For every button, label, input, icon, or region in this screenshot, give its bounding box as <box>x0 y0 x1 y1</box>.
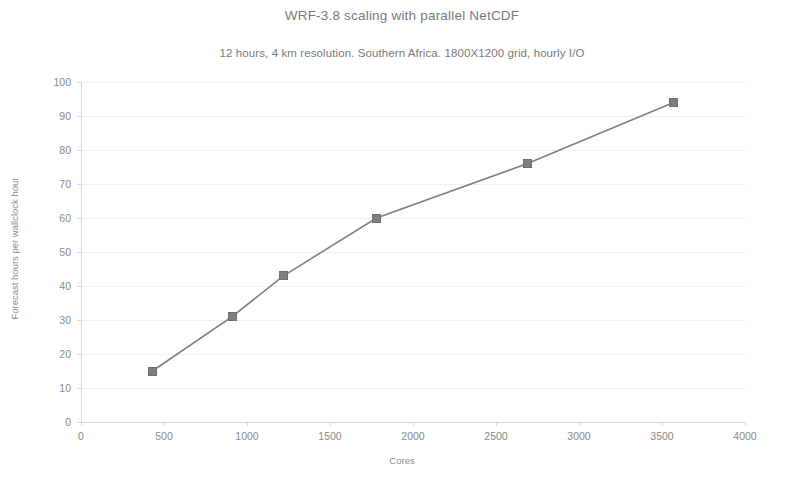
y-axis-tick-label: 60 <box>31 213 71 224</box>
y-axis-line <box>81 82 82 423</box>
x-axis-tick <box>247 422 248 426</box>
gridline-horizontal <box>81 184 745 185</box>
y-axis-tick-label: 20 <box>31 349 71 360</box>
x-axis-tick <box>81 422 82 426</box>
data-point-marker <box>669 98 678 107</box>
y-axis-tick <box>77 150 81 151</box>
gridline-horizontal <box>81 286 745 287</box>
gridline-horizontal <box>81 150 745 151</box>
gridline-horizontal <box>81 252 745 253</box>
gridline-horizontal <box>81 116 745 117</box>
y-axis-tick-label: 50 <box>31 247 71 258</box>
x-axis-title: Cores <box>0 455 804 466</box>
data-point-marker <box>228 312 237 321</box>
data-point-marker <box>372 214 381 223</box>
data-point-marker <box>148 367 157 376</box>
chart-title: WRF-3.8 scaling with parallel NetCDF <box>0 8 804 23</box>
x-axis-tick <box>413 422 414 426</box>
plot-area <box>81 82 745 423</box>
x-axis-tick <box>662 422 663 426</box>
y-axis-tick <box>77 184 81 185</box>
y-axis-tick <box>77 388 81 389</box>
data-point-marker <box>523 159 532 168</box>
x-axis-tick <box>579 422 580 426</box>
y-axis-tick <box>77 320 81 321</box>
y-axis-tick-label: 90 <box>31 111 71 122</box>
y-axis-tick <box>77 252 81 253</box>
y-axis-tick-label: 70 <box>31 179 71 190</box>
gridline-horizontal <box>81 218 745 219</box>
gridline-horizontal <box>81 82 745 83</box>
gridline-horizontal <box>81 388 745 389</box>
gridline-horizontal <box>81 354 745 355</box>
y-axis-tick <box>77 354 81 355</box>
chart-subtitle: 12 hours, 4 km resolution. Southern Afri… <box>0 47 804 59</box>
x-axis-tick-label: 0 <box>51 431 111 442</box>
chart-page: WRF-3.8 scaling with parallel NetCDF 12 … <box>0 0 804 484</box>
x-axis-tick-label: 2500 <box>466 431 526 442</box>
y-axis-tick <box>77 116 81 117</box>
x-axis-tick-label: 500 <box>134 431 194 442</box>
x-axis-tick-label: 3500 <box>632 431 692 442</box>
y-axis-tick-label: 10 <box>31 383 71 394</box>
y-axis-tick-label: 100 <box>31 77 71 88</box>
x-axis-tick-label: 3000 <box>549 431 609 442</box>
y-axis-tick-label: 40 <box>31 281 71 292</box>
x-axis-tick-label: 4000 <box>715 431 775 442</box>
y-axis-tick <box>77 286 81 287</box>
y-axis-tick-label: 30 <box>31 315 71 326</box>
x-axis-tick <box>745 422 746 426</box>
y-axis-tick <box>77 218 81 219</box>
x-axis-tick <box>330 422 331 426</box>
x-axis-tick-label: 1000 <box>217 431 277 442</box>
x-axis-tick-label: 1500 <box>300 431 360 442</box>
x-axis-tick-label: 2000 <box>383 431 443 442</box>
data-point-marker <box>279 271 288 280</box>
y-axis-tick-label: 0 <box>31 417 71 428</box>
gridline-horizontal <box>81 320 745 321</box>
x-axis-tick <box>496 422 497 426</box>
y-axis-title: Forecast hours per wallclock hour <box>9 149 20 349</box>
x-axis-tick <box>164 422 165 426</box>
y-axis-tick <box>77 82 81 83</box>
y-axis-tick-label: 80 <box>31 145 71 156</box>
